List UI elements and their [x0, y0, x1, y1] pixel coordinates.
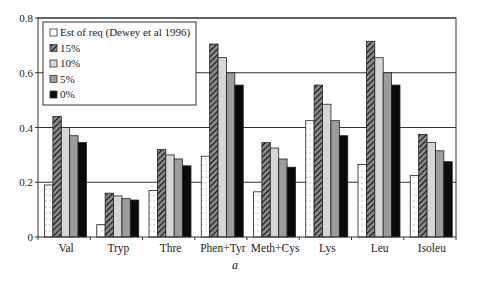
bar-tryp-15-: [105, 193, 113, 237]
bar-val-15-: [53, 117, 61, 237]
bar-lys-est-of-req-dewey-et-al-1996-: [306, 121, 314, 237]
bar-leu-10-: [375, 58, 383, 237]
bar-phen-tyr-10-: [218, 58, 226, 237]
y-tick-label: 0.8: [19, 12, 33, 24]
y-tick-label: 0: [28, 231, 34, 243]
bar-isoleu-est-of-req-dewey-et-al-1996-: [410, 175, 418, 237]
legend-swatch: [50, 45, 57, 52]
x-category-label: Lys: [319, 242, 336, 255]
legend-label: 0%: [60, 88, 75, 100]
bar-leu-0-: [392, 85, 400, 237]
bar-tryp-0-: [130, 200, 138, 237]
bar-isoleu-5-: [435, 151, 443, 237]
legend-label: Est of req (Dewey et al 1996): [60, 26, 190, 39]
x-category-label: Leu: [371, 242, 389, 254]
bar-thre-est-of-req-dewey-et-al-1996-: [149, 190, 157, 237]
legend-swatch: [50, 76, 57, 83]
bar-meth-cys-15-: [262, 143, 270, 237]
legend-swatch: [50, 60, 57, 67]
bar-thre-5-: [174, 159, 182, 237]
y-tick-label: 0.2: [19, 176, 33, 188]
x-category-label: Thre: [160, 242, 182, 254]
y-tick-label: 0.6: [19, 67, 33, 79]
bar-isoleu-10-: [427, 143, 435, 237]
legend-swatch: [50, 29, 57, 36]
bar-lys-0-: [339, 136, 347, 237]
x-category-label: Tryp: [107, 242, 129, 255]
bar-meth-cys-0-: [287, 167, 295, 237]
bar-meth-cys-5-: [279, 159, 287, 237]
bar-val-est-of-req-dewey-et-al-1996-: [45, 185, 53, 237]
bar-leu-est-of-req-dewey-et-al-1996-: [358, 164, 366, 237]
x-category-label: Phen+Tyr: [200, 242, 245, 255]
y-tick-label: 0.4: [19, 122, 33, 134]
bar-leu-15-: [366, 41, 374, 237]
x-category-label: Val: [58, 242, 73, 254]
bar-tryp-est-of-req-dewey-et-al-1996-: [97, 225, 105, 237]
bar-val-0-: [78, 143, 86, 237]
bar-tryp-5-: [122, 199, 130, 237]
bar-chart: 00.20.40.60.8 ValTrypThrePhen+TyrMeth+Cy…: [0, 0, 478, 281]
bar-val-10-: [61, 128, 69, 238]
bar-isoleu-15-: [419, 134, 427, 237]
bar-meth-cys-10-: [270, 148, 278, 237]
bar-phen-tyr-5-: [226, 73, 234, 237]
legend-label: 10%: [60, 57, 80, 69]
bar-tryp-10-: [114, 196, 122, 237]
figure-caption: a: [232, 258, 238, 273]
y-axis-labels: 00.20.40.60.8: [19, 12, 33, 243]
x-category-label: Isoleu: [418, 242, 446, 254]
bar-lys-15-: [314, 85, 322, 237]
bar-isoleu-0-: [444, 162, 452, 237]
bar-thre-0-: [183, 166, 191, 237]
bar-phen-tyr-0-: [235, 85, 243, 237]
bar-thre-10-: [166, 155, 174, 237]
legend-label: 15%: [60, 42, 80, 54]
bar-val-5-: [70, 136, 78, 237]
legend-swatch: [50, 91, 57, 98]
bar-lys-5-: [331, 121, 339, 237]
bar-meth-cys-est-of-req-dewey-et-al-1996-: [254, 192, 262, 237]
legend-label: 5%: [60, 73, 75, 85]
bar-phen-tyr-15-: [210, 44, 218, 237]
bar-phen-tyr-est-of-req-dewey-et-al-1996-: [201, 156, 209, 237]
x-category-label: Meth+Cys: [251, 242, 300, 255]
x-axis-labels: ValTrypThrePhen+TyrMeth+CysLysLeuIsoleu: [58, 242, 446, 255]
legend: Est of req (Dewey et al 1996)15%10%5%0%: [43, 22, 196, 105]
bar-lys-10-: [323, 104, 331, 237]
bar-leu-5-: [383, 73, 391, 237]
bar-thre-15-: [157, 149, 165, 237]
